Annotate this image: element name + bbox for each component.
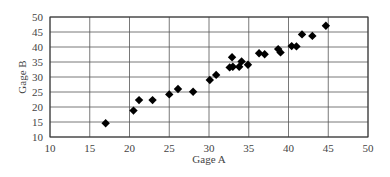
diamond-marker	[212, 71, 220, 79]
y-tick-label: 20	[32, 101, 44, 113]
x-tick-label: 10	[45, 142, 57, 154]
y-tick-label: 45	[32, 26, 44, 38]
diamond-marker	[148, 96, 156, 104]
diamond-marker	[101, 119, 109, 127]
x-tick-label: 35	[243, 142, 255, 154]
x-axis-label: Gage A	[192, 153, 225, 165]
x-tick-label: 45	[323, 142, 335, 154]
y-tick-label: 40	[32, 41, 44, 53]
y-tick-label: 15	[32, 116, 44, 128]
diamond-marker	[322, 22, 330, 30]
y-tick-label: 25	[32, 86, 44, 98]
x-tick-label: 50	[363, 142, 375, 154]
diamond-marker	[189, 88, 197, 96]
y-axis-ticks: 101520253035404550	[32, 11, 44, 143]
diamond-marker	[298, 30, 306, 38]
x-tick-label: 15	[84, 142, 96, 154]
diamond-marker	[129, 106, 137, 114]
y-tick-label: 30	[32, 71, 44, 83]
scatter-chart: 101520253035404550 101520253035404550 Ga…	[0, 0, 390, 177]
diamond-marker	[292, 42, 300, 50]
x-tick-label: 20	[124, 142, 136, 154]
x-tick-label: 40	[283, 142, 295, 154]
diamond-marker	[228, 53, 236, 61]
diamond-marker	[165, 90, 173, 98]
diamond-marker	[135, 96, 143, 104]
y-tick-label: 10	[32, 131, 44, 143]
y-axis-label: Gage B	[16, 60, 28, 93]
x-tick-label: 25	[164, 142, 176, 154]
y-tick-label: 50	[32, 11, 44, 23]
y-tick-label: 35	[32, 56, 44, 68]
data-points	[101, 22, 330, 128]
diamond-marker	[260, 50, 268, 58]
diamond-marker	[308, 32, 316, 40]
